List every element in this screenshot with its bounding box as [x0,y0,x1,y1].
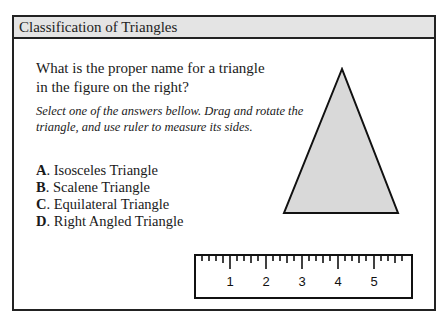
panel-header: Classification of Triangles [14,17,434,39]
answer-letter: D [36,213,46,229]
answer-label: . Right Angled Triangle [46,213,183,229]
quiz-panel: Classification of Triangles What is the … [12,15,436,311]
ruler-label: 3 [298,274,305,289]
panel-title: Classification of Triangles [19,19,177,36]
instructions-text: Select one of the answers bellow. Drag a… [36,103,306,135]
question-text: What is the proper name for a triangle i… [36,59,276,97]
answer-label: . Equilateral Triangle [46,196,169,212]
ruler-label: 2 [262,274,269,289]
answer-label: . Isosceles Triangle [46,162,158,178]
ruler-label: 4 [334,274,341,289]
answer-option-c[interactable]: C. Equilateral Triangle [36,196,183,213]
answer-letter: B [36,179,46,195]
answer-option-d[interactable]: D. Right Angled Triangle [36,213,183,230]
ruler-tool[interactable]: 1 2 3 4 5 [194,254,413,299]
draggable-triangle[interactable] [282,67,402,217]
ruler-label: 5 [370,274,377,289]
answer-list: A. Isosceles Triangle B. Scalene Triangl… [36,162,183,230]
answer-option-b[interactable]: B. Scalene Triangle [36,179,183,196]
answer-letter: C [36,196,46,212]
answer-letter: A [36,162,46,178]
answer-option-a[interactable]: A. Isosceles Triangle [36,162,183,179]
answer-label: . Scalene Triangle [46,179,150,195]
ruler-label: 1 [226,274,233,289]
